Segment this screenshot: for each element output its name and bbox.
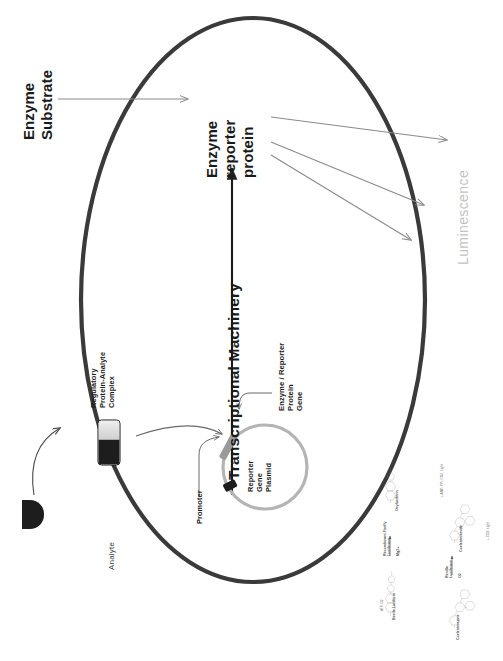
gene-leader — [239, 393, 272, 409]
renilla-cofactor-label: O2 — [458, 573, 462, 578]
promoter-leader — [199, 437, 219, 497]
renilla-luciferase-label: Renilla Luciferase — [445, 560, 454, 578]
figure-canvas: Enzyme Substrate Enzyme reporter protein… — [0, 0, 503, 661]
renilla-enzyme-line2: Luciferase — [449, 560, 453, 578]
enzyme-substrate-line1: Enzyme — [20, 70, 38, 140]
enzyme-substrate-label: Enzyme Substrate — [20, 70, 56, 140]
enzyme-reporter-line3: protein — [239, 120, 257, 178]
coelenteramide-label: Coelenteramide — [459, 525, 463, 552]
plasmid-label: Reporter Gene Plasmid — [247, 460, 274, 492]
firefly-product-note: + AMP, PPi, CO2, Light — [441, 464, 445, 497]
firefly-cofactor-label: Mg2+ — [396, 547, 400, 556]
analyte-label: Analyte — [107, 542, 116, 570]
enzyme-reporter-line2: reporter — [221, 120, 239, 178]
gene-line3: Gene — [295, 343, 304, 411]
gene-line2: Protein — [286, 343, 295, 411]
luminescence-arrow-3 — [271, 155, 411, 240]
oxyluciferin-label: Oxyluciferin — [395, 490, 399, 511]
complex-analyte-half — [99, 421, 120, 440]
enzyme-reporter-line1: Enzyme — [203, 120, 221, 178]
complex-protein-half — [99, 440, 120, 465]
regulatory-complex-label: Regulatory Protein-Analyte Complex — [90, 352, 117, 408]
enzyme-reporter-gene-label: Enzyme / Reporter Protein Gene — [277, 343, 304, 411]
promoter-label: Promoter — [196, 490, 205, 524]
diagram-vectors — [0, 0, 503, 661]
luminescence-label: Luminescence — [455, 170, 472, 265]
complex-to-plasmid-arrow — [136, 426, 222, 436]
renilla-product-note: + CO2, Light — [487, 522, 491, 540]
enzyme-substrate-line2: Substrate — [38, 70, 56, 140]
gene-line1: Enzyme / Reporter — [277, 343, 286, 411]
coelenterazine-label: Coelenterazine — [456, 614, 460, 640]
beetle-luciferin-label: Beetle Luciferin — [392, 593, 396, 620]
enzyme-reporter-protein-label: Enzyme reporter protein — [203, 120, 257, 178]
complex-body — [98, 420, 121, 466]
analyte-binding-arrow — [33, 428, 60, 495]
transcriptional-machinery-label: Transcriptional Machinery — [225, 283, 243, 480]
luminescence-arrow-1 — [271, 117, 447, 140]
firefly-enzyme-line2: Luciferase — [387, 521, 391, 556]
plasmid-line3: Plasmid — [265, 460, 274, 492]
firefly-substrate-note: ATP, O2 — [381, 599, 385, 611]
regulatory-protein-analyte-complex-glyph — [98, 420, 121, 466]
regulatory-complex-line3: Complex — [108, 352, 117, 408]
firefly-luciferase-label: Recombinant Firefly Luciferase — [383, 521, 392, 556]
cell-membrane-outline — [81, 18, 425, 582]
